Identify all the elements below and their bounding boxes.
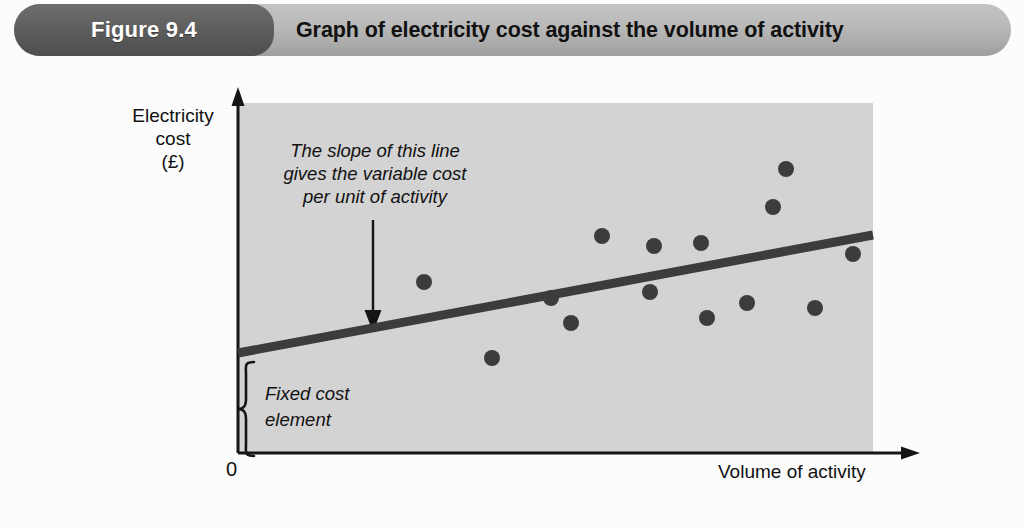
chart-area: Electricity cost (£) Volume of activity … <box>0 56 1025 529</box>
y-axis <box>232 87 245 453</box>
data-point <box>642 284 658 300</box>
data-point <box>646 238 662 254</box>
data-point <box>845 246 861 262</box>
figure-number-label: Figure 9.4 <box>91 17 197 43</box>
data-point <box>543 290 559 306</box>
data-point <box>594 228 610 244</box>
data-point <box>563 315 579 331</box>
data-point <box>416 274 432 290</box>
scatter-points <box>416 161 861 366</box>
data-point <box>807 300 823 316</box>
data-point <box>484 350 500 366</box>
x-axis <box>238 447 920 460</box>
data-point <box>765 199 781 215</box>
data-point <box>699 310 715 326</box>
figure-title: Graph of electricity cost against the vo… <box>296 4 844 56</box>
data-point <box>693 235 709 251</box>
data-point <box>778 161 794 177</box>
chart-graphics <box>0 56 1025 529</box>
data-point <box>739 295 755 311</box>
slope-pointer-arrow-icon <box>365 220 382 332</box>
fixed-cost-brace-icon <box>238 362 254 456</box>
figure-number-badge: Figure 9.4 <box>14 4 274 56</box>
